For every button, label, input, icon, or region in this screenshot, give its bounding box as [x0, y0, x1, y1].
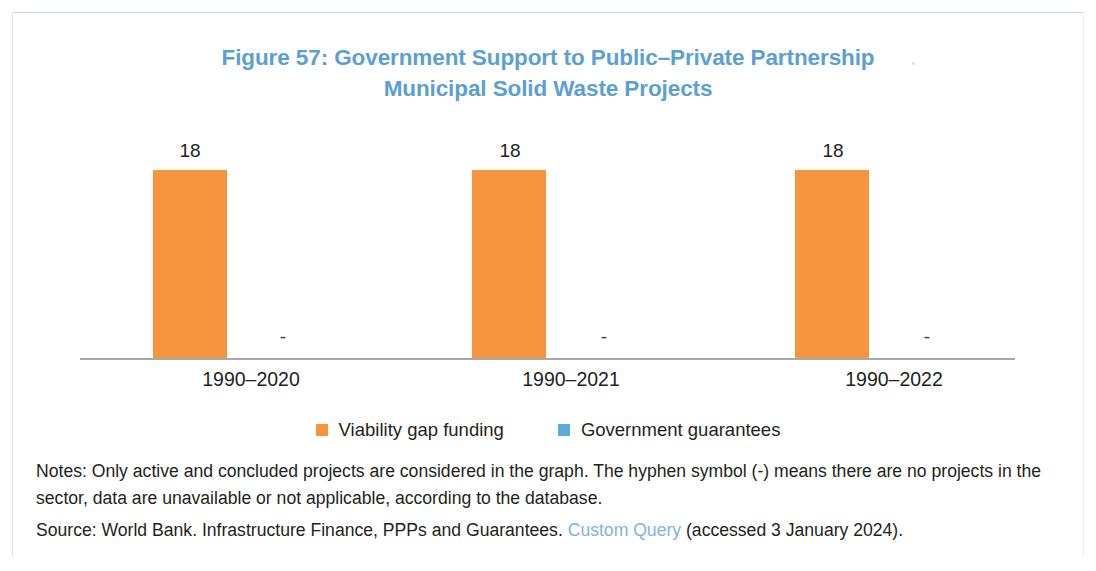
- category-label-1990-2021: 1990–2021: [450, 366, 692, 392]
- legend-label: Government guarantees: [581, 418, 781, 442]
- category-label-1990-2020: 1990–2020: [130, 366, 372, 392]
- figure-frame-right-border: [1083, 12, 1084, 557]
- missing-value-mark: -: [243, 327, 323, 347]
- source-suffix: (accessed 3 January 2024).: [681, 520, 903, 540]
- legend-item-government-guarantees: Government guarantees: [558, 418, 781, 442]
- notes-text: Notes: Only active and concluded project…: [36, 458, 1066, 511]
- bar-viability-gap-funding-1990-2020: [153, 170, 227, 358]
- figure-container: Figure 57: Government Support to Public–…: [0, 0, 1096, 571]
- figure-frame-top-border: [12, 12, 1084, 13]
- legend-item-viability-gap-funding: Viability gap funding: [316, 418, 504, 442]
- legend-swatch-icon: [558, 424, 570, 436]
- figure-frame-left-border: [12, 12, 13, 557]
- source-prefix: Source: World Bank. Infrastructure Finan…: [36, 520, 568, 540]
- bar-value-label: 18: [773, 140, 893, 162]
- missing-value-mark: -: [564, 327, 644, 347]
- bar-value-label: 18: [130, 140, 250, 162]
- source-text: Source: World Bank. Infrastructure Finan…: [36, 517, 1066, 544]
- bar-value-label: 18: [450, 140, 570, 162]
- category-label-1990-2022: 1990–2022: [773, 366, 1015, 392]
- figure-footnotes: Notes: Only active and concluded project…: [36, 458, 1066, 544]
- chart-legend: Viability gap funding Government guarant…: [0, 418, 1096, 442]
- legend-label: Viability gap funding: [339, 418, 504, 442]
- chart-title-line-1: Figure 57: Government Support to Public–…: [60, 42, 1036, 73]
- bar-viability-gap-funding-1990-2021: [472, 170, 546, 358]
- legend-swatch-icon: [316, 424, 328, 436]
- custom-query-link[interactable]: Custom Query: [568, 520, 681, 540]
- chart-title-line-2: Municipal Solid Waste Projects: [60, 73, 1036, 104]
- chart-title: Figure 57: Government Support to Public–…: [60, 42, 1036, 104]
- missing-value-mark: -: [887, 327, 967, 347]
- x-axis-line: [80, 358, 1015, 360]
- title-decorative-dot: [912, 62, 915, 65]
- bar-viability-gap-funding-1990-2022: [795, 170, 869, 358]
